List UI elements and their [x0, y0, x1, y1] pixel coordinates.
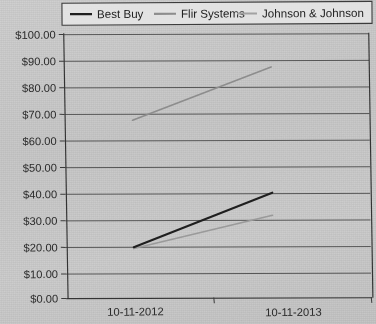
y-tick-label: $50.00	[23, 162, 57, 174]
y-axis-tick-labels: $100.00 $90.00 $80.00 $70.00 $60.00 $50.…	[15, 29, 58, 305]
line-chart: $100.00 $90.00 $80.00 $70.00 $60.00 $50.…	[0, 0, 376, 324]
y-tick-label: $70.00	[22, 108, 56, 120]
data-series-group	[132, 67, 273, 249]
chart-legend: Best Buy Flir Systems Johnson & Johnson	[62, 1, 372, 25]
y-tick-label: $60.00	[22, 135, 56, 147]
legend-label-best-buy: Best Buy	[97, 7, 144, 20]
plot-right-border	[369, 33, 373, 298]
y-tick-label: $90.00	[22, 55, 56, 67]
series-line-flir-systems	[132, 67, 271, 120]
x-axis-tick-labels: 10-11-2012 10-11-2013	[107, 304, 322, 320]
legend-label-johnson-and-johnson: Johnson & Johnson	[262, 6, 364, 20]
y-tick-label: $10.00	[24, 268, 58, 280]
y-tick-label: $40.00	[23, 188, 57, 200]
chart-axes	[64, 30, 373, 300]
chart-container: $100.00 $90.00 $80.00 $70.00 $60.00 $50.…	[0, 0, 376, 324]
y-tick-label: $20.00	[24, 241, 58, 253]
legend-label-flir-systems: Flir Systems	[181, 6, 245, 19]
y-tick-label: $0.00	[30, 293, 58, 305]
x-axis	[66, 296, 372, 301]
y-tick-label: $30.00	[23, 215, 57, 227]
y-axis-ticks	[59, 34, 67, 298]
x-tick-label: 10-11-2013	[265, 306, 322, 319]
y-axis	[64, 33, 68, 299]
y-tick-label: $80.00	[22, 82, 56, 94]
y-tick-label: $100.00	[15, 29, 56, 41]
x-tick-label: 10-11-2012	[107, 305, 164, 318]
gridlines	[64, 32, 371, 276]
